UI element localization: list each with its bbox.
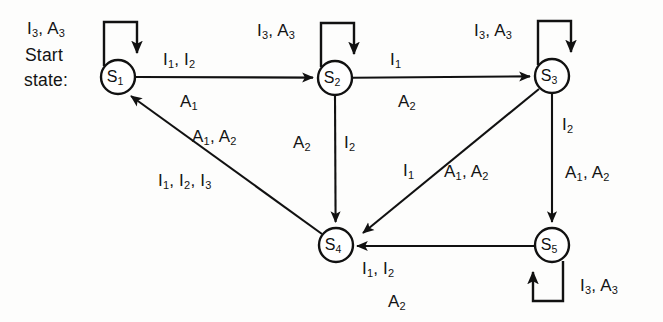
- label-s5-selfloop: I3, A3: [580, 277, 618, 294]
- state-node-s4[interactable]: S4: [319, 228, 353, 262]
- label-s3-s4-right: A1, A2: [444, 163, 489, 180]
- label-start-line1: Start: [25, 47, 63, 65]
- state-node-s5[interactable]: S5: [535, 228, 569, 262]
- edge-s4-to-s1: [131, 96, 322, 234]
- label-s5-s4-lower: A2: [388, 293, 406, 310]
- label-start-line2: state:: [24, 72, 68, 90]
- edge-s2-to-s4: [335, 96, 336, 222]
- label-s1-s2-bottom: A1: [180, 93, 198, 110]
- label-s5-s4-upper: I1, I2: [362, 260, 394, 277]
- label-s3-selfloop: I3, A3: [474, 22, 512, 39]
- state-node-s3[interactable]: S3: [535, 59, 569, 93]
- state-diagram: S1 S2 S3 S4 S5 I3, A3 Start state: I1, I…: [0, 0, 663, 322]
- label-s2-selfloop: I3, A3: [257, 22, 295, 39]
- label-s4-s1-upper: A1, A2: [192, 128, 237, 145]
- label-s2-s3-top: I1: [390, 51, 401, 68]
- label-s4-s1-lower: I1, I2, I3: [158, 172, 211, 189]
- state-diagram-canvas: S1 S2 S3 S4 S5: [0, 0, 663, 322]
- label-s2-s3-bottom: A2: [398, 93, 416, 110]
- edge-s2-to-s3: [353, 76, 530, 77]
- label-s2-s4-right: I2: [344, 134, 355, 151]
- edge-s1-to-s2: [136, 77, 313, 78]
- label-s1-selfloop: I3, A3: [27, 20, 65, 37]
- label-s3-s4-left: I1: [403, 162, 414, 179]
- state-node-s1[interactable]: S1: [101, 60, 135, 94]
- edge-s5-self-loop: [533, 261, 563, 301]
- state-node-s2[interactable]: S2: [318, 61, 352, 95]
- label-s3-s5-lower: A1, A2: [565, 164, 610, 181]
- label-s3-s5-upper: I2: [562, 116, 573, 133]
- label-s1-s2-top: I1, I2: [163, 51, 195, 68]
- label-s2-s4-left: A2: [293, 134, 311, 151]
- edge-s3-to-s4: [363, 89, 539, 233]
